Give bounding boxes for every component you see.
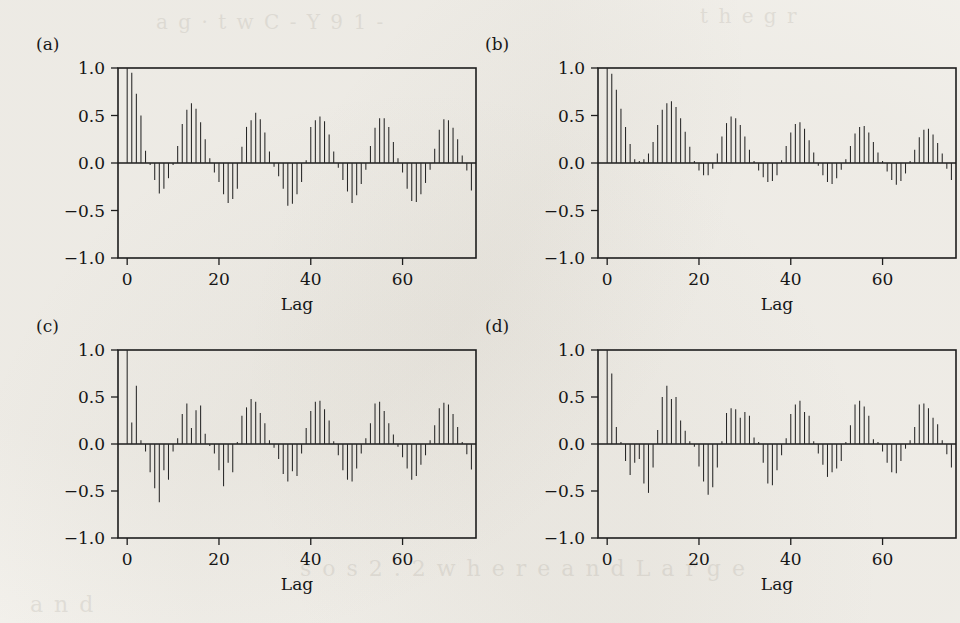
x-tick-label: 40 [780,549,802,569]
y-tick-label: 0.5 [558,106,585,126]
x-tick-label: 60 [392,269,414,289]
y-tick-label: −0.5 [64,481,105,501]
panel-d-plot: −1.0−0.50.00.51.00204060Lag [480,300,960,620]
y-tick-label: 1.0 [558,340,585,360]
y-tick-label: 0.0 [78,153,105,173]
x-tick-label: 40 [780,269,802,289]
x-tick-label: 60 [872,269,894,289]
panel-c: (c) −1.0−0.50.00.51.00204060Lag [0,300,500,620]
y-tick-label: 0.0 [558,153,585,173]
y-tick-label: 0.5 [78,106,105,126]
x-tick-label: 20 [208,549,230,569]
acf-bars [607,350,951,495]
panel-c-plot: −1.0−0.50.00.51.00204060Lag [0,300,500,620]
panel-c-label: (c) [36,316,59,336]
x-tick-label: 0 [602,549,613,569]
x-axis-title: Lag [761,574,793,594]
y-tick-label: 1.0 [78,340,105,360]
y-tick-label: −1.0 [544,528,585,548]
y-tick-label: −0.5 [64,201,105,221]
y-tick-label: 0.5 [78,387,105,407]
x-tick-label: 60 [392,549,414,569]
x-tick-label: 0 [122,269,133,289]
x-axis-title: Lag [281,574,313,594]
panel-b-label: (b) [485,34,509,54]
y-tick-label: 1.0 [558,58,585,78]
acf-figure: (a) −1.0−0.50.00.51.00204060Lag (b) −1.0… [0,0,960,623]
y-tick-label: 0.0 [78,434,105,454]
panel-b: (b) −1.0−0.50.00.51.00204060Lag [480,0,960,320]
x-tick-label: 40 [300,549,322,569]
y-tick-label: −1.0 [64,248,105,268]
panel-b-plot: −1.0−0.50.00.51.00204060Lag [480,0,960,320]
acf-bars [607,68,951,185]
y-tick-label: −1.0 [544,248,585,268]
y-tick-label: 1.0 [78,58,105,78]
y-tick-label: 0.0 [558,434,585,454]
panel-a-label: (a) [36,34,59,54]
panel-a: (a) −1.0−0.50.00.51.00204060Lag [0,0,500,320]
acf-bars [127,68,471,206]
x-tick-label: 20 [688,549,710,569]
x-tick-label: 0 [602,269,613,289]
y-tick-label: 0.5 [558,387,585,407]
x-tick-label: 40 [300,269,322,289]
panel-d: (d) −1.0−0.50.00.51.00204060Lag [480,300,960,620]
acf-bars [127,350,471,502]
y-tick-label: −0.5 [544,201,585,221]
y-tick-label: −0.5 [544,481,585,501]
x-tick-label: 60 [872,549,894,569]
x-tick-label: 20 [208,269,230,289]
x-tick-label: 0 [122,549,133,569]
x-tick-label: 20 [688,269,710,289]
panel-d-label: (d) [485,316,509,336]
y-tick-label: −1.0 [64,528,105,548]
panel-a-plot: −1.0−0.50.00.51.00204060Lag [0,0,500,320]
